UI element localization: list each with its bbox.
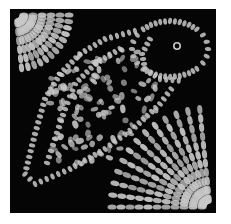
lace-fill-stitch bbox=[96, 66, 101, 74]
lace-stitch bbox=[130, 38, 138, 45]
lace-stitch bbox=[126, 29, 132, 36]
lace-stitch bbox=[49, 173, 55, 180]
fan-petal bbox=[144, 196, 154, 202]
lace-stitch bbox=[35, 119, 42, 125]
fan-petal bbox=[30, 60, 38, 70]
lace-fill-stitch bbox=[116, 146, 124, 151]
fan-petal bbox=[173, 110, 181, 120]
lace-fill-stitch bbox=[80, 143, 89, 150]
fan-petal bbox=[134, 165, 144, 174]
lace-stitch bbox=[163, 18, 168, 25]
fan-petal bbox=[60, 30, 70, 38]
fan-petal bbox=[182, 135, 190, 145]
lace-stitch bbox=[102, 35, 109, 43]
fan-petal bbox=[142, 169, 152, 178]
fan-petal bbox=[173, 139, 182, 149]
lace-stitch bbox=[32, 180, 38, 187]
fan-petal bbox=[155, 184, 165, 192]
fan-petal bbox=[145, 188, 155, 195]
fan-petal bbox=[117, 193, 127, 199]
fan-petal bbox=[135, 204, 144, 209]
lace-stitch bbox=[158, 19, 163, 26]
lace-fill-stitch bbox=[138, 80, 147, 87]
fan-petal bbox=[198, 114, 204, 123]
fan-petal bbox=[176, 118, 184, 128]
lace-stitch bbox=[59, 112, 66, 118]
lace-bird-photo bbox=[10, 9, 216, 213]
lace-stitch bbox=[79, 72, 86, 79]
fan-petal bbox=[201, 150, 207, 159]
fan-petal bbox=[154, 191, 164, 198]
lace-stitch bbox=[114, 32, 120, 39]
lace-stitch bbox=[160, 95, 168, 102]
lace-stitch bbox=[21, 170, 28, 177]
fan-petal bbox=[195, 150, 202, 160]
lace-fill-stitch bbox=[83, 59, 92, 65]
top-left-lace-fan bbox=[14, 12, 74, 72]
bird-eye bbox=[174, 43, 180, 49]
lace-stitch bbox=[141, 46, 149, 53]
fan-petal bbox=[127, 184, 137, 191]
lace-stitch bbox=[168, 85, 176, 92]
fan-petal bbox=[117, 204, 126, 209]
lace-stitch bbox=[156, 100, 164, 107]
lace-stitch bbox=[87, 44, 94, 52]
lace-stitch bbox=[26, 154, 33, 159]
fan-petal bbox=[184, 107, 191, 117]
lace-fill-stitch bbox=[121, 65, 129, 73]
lace-stitch bbox=[97, 38, 104, 46]
fan-petal bbox=[126, 204, 135, 209]
fan-petal bbox=[126, 194, 136, 200]
lace-stitch bbox=[136, 119, 143, 126]
lace-stitch bbox=[38, 108, 45, 114]
lace-stitch bbox=[144, 41, 152, 48]
fan-petal bbox=[144, 204, 153, 209]
lace-fill-stitch bbox=[85, 121, 92, 129]
lace-fill-stitch bbox=[145, 77, 152, 84]
fan-petal bbox=[153, 197, 163, 203]
fan-petal bbox=[62, 24, 72, 31]
lace-stitch bbox=[41, 96, 48, 102]
lace-stitch bbox=[182, 20, 188, 27]
lace-fill-stitch bbox=[130, 88, 138, 94]
lace-stitch bbox=[30, 137, 37, 142]
lace-fill-stitch bbox=[106, 84, 114, 92]
lace-stitch bbox=[61, 168, 67, 175]
fan-petal bbox=[139, 178, 149, 186]
fan-petal bbox=[199, 123, 205, 132]
lace-stitch bbox=[153, 20, 159, 27]
fan-petal bbox=[108, 204, 117, 209]
fan-petal bbox=[188, 124, 195, 134]
fan-petal bbox=[135, 195, 145, 201]
fan-petal bbox=[202, 158, 208, 167]
lace-stitch bbox=[177, 18, 183, 25]
lace-stitch bbox=[40, 102, 47, 108]
fan-petal bbox=[147, 181, 157, 189]
lace-stitch bbox=[67, 165, 74, 173]
lace-stitch bbox=[44, 175, 50, 182]
lace-stitch bbox=[55, 170, 61, 177]
lace-fill-stitch bbox=[120, 104, 126, 113]
fan-petal bbox=[126, 161, 136, 170]
fan-petal bbox=[200, 132, 206, 141]
lace-stitch bbox=[168, 18, 173, 25]
lace-fill-stitch bbox=[135, 95, 142, 102]
lace-stitch bbox=[45, 154, 52, 160]
fan-petal bbox=[55, 17, 65, 23]
lace-stitch bbox=[199, 32, 207, 39]
lace-stitch bbox=[164, 90, 172, 97]
lace-fill-stitch bbox=[108, 105, 115, 110]
fan-petal bbox=[197, 105, 203, 114]
fan-petal bbox=[136, 186, 146, 193]
fan-petal bbox=[161, 115, 170, 125]
lace-stitch bbox=[203, 39, 210, 44]
lace-stitch bbox=[36, 114, 43, 120]
fan-petal bbox=[122, 171, 132, 179]
fan-petal bbox=[130, 174, 140, 182]
fan-petal bbox=[24, 62, 31, 72]
fan-petal bbox=[178, 147, 187, 157]
fan-petal bbox=[18, 54, 24, 63]
lace-stitch bbox=[55, 124, 62, 130]
fan-petal bbox=[162, 204, 171, 209]
lace-stitch bbox=[120, 31, 126, 38]
